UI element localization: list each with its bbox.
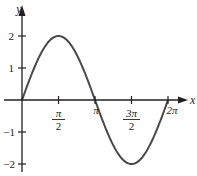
svg-text:2: 2 — [56, 120, 62, 132]
tick-label-2pi: 2π — [166, 104, 178, 116]
tick-label-y-minus-1: −1 — [3, 126, 15, 138]
tick-label-y-2: 2 — [9, 30, 15, 42]
sine-chart: x π 2 π 3π 2 2π y 2 1 −1 −2 — [0, 0, 197, 176]
svg-text:3π: 3π — [125, 107, 138, 119]
tick-label-y-1: 1 — [9, 62, 15, 74]
tick-label-3pi-over-2: 3π 2 — [123, 107, 140, 132]
svg-text:2: 2 — [129, 120, 135, 132]
x-axis-arrow-icon — [178, 97, 188, 104]
svg-text:π: π — [56, 107, 62, 119]
tick-label-y-minus-2: −2 — [3, 158, 15, 170]
x-axis-label: x — [189, 93, 196, 107]
tick-label-pi-over-2: π 2 — [52, 107, 65, 132]
y-axis: y 2 1 −1 −2 — [3, 2, 26, 172]
y-axis-label: y — [15, 2, 22, 16]
tick-label-pi: π — [93, 104, 99, 116]
